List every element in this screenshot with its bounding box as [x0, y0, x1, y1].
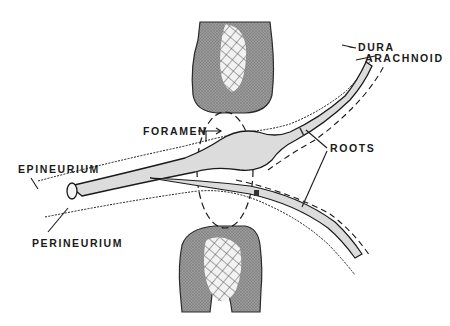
label-perineurium: PERINEURIUM	[32, 238, 123, 249]
upper-bone	[192, 22, 273, 113]
perineurium-leader	[48, 208, 68, 232]
roots-leader-lower	[302, 151, 327, 207]
lower-bone	[179, 226, 261, 312]
root-mark-lower	[254, 190, 259, 196]
dura-leader	[342, 45, 356, 48]
label-roots: ROOTS	[330, 143, 375, 154]
roots-leader-upper	[306, 130, 327, 148]
epineurium-leader	[31, 178, 38, 189]
label-dura: DURA	[358, 42, 395, 53]
nerve-cut-end	[67, 183, 77, 199]
label-epineurium: EPINEURIUM	[18, 164, 100, 175]
nerve-root-diagram: DURA ARACHNOID FORAMEN ROOTS EPINEURIUM …	[0, 0, 450, 326]
label-arachnoid: ARACHNOID	[365, 53, 444, 64]
label-foramen: FORAMEN	[143, 126, 207, 137]
